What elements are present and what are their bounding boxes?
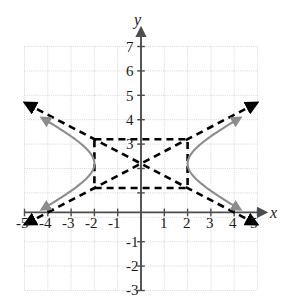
x-tick-label--1: -1 [108,216,121,231]
y-tick-label-3: 3 [126,137,134,152]
x-tick-label-1: 1 [160,216,168,231]
x-tick-label--4: -4 [39,216,52,231]
y-tick-label--3: -3 [126,283,139,298]
y-tick-label--2: -2 [126,259,139,274]
y-tick-label-5: 5 [126,89,134,104]
x-axis-label: x [270,205,277,221]
x-tick-label-2: 2 [183,216,191,231]
x-tick-label-5: 5 [250,216,258,231]
y-axis-label: y [134,12,141,28]
graph-canvas [0,0,285,306]
x-tick-label--5: -5 [16,216,29,231]
y-tick-label-6: 6 [126,64,134,79]
y-tick-label-4: 4 [126,113,134,128]
hyperbola-left-branch [43,118,95,209]
axis-lines [25,28,267,291]
x-tick-label--2: -2 [85,216,98,231]
x-tick-label-3: 3 [206,216,214,231]
x-tick-label--3: -3 [62,216,75,231]
hyperbola-right-branch [188,118,240,209]
y-tick-label-7: 7 [126,40,134,55]
hyperbola-figure: -5 -4 -3 -2 -1 1 2 3 4 5 7 6 5 4 3 -1 -2… [0,0,285,306]
x-tick-label-4: 4 [229,216,237,231]
y-tick-label--1: -1 [126,235,139,250]
